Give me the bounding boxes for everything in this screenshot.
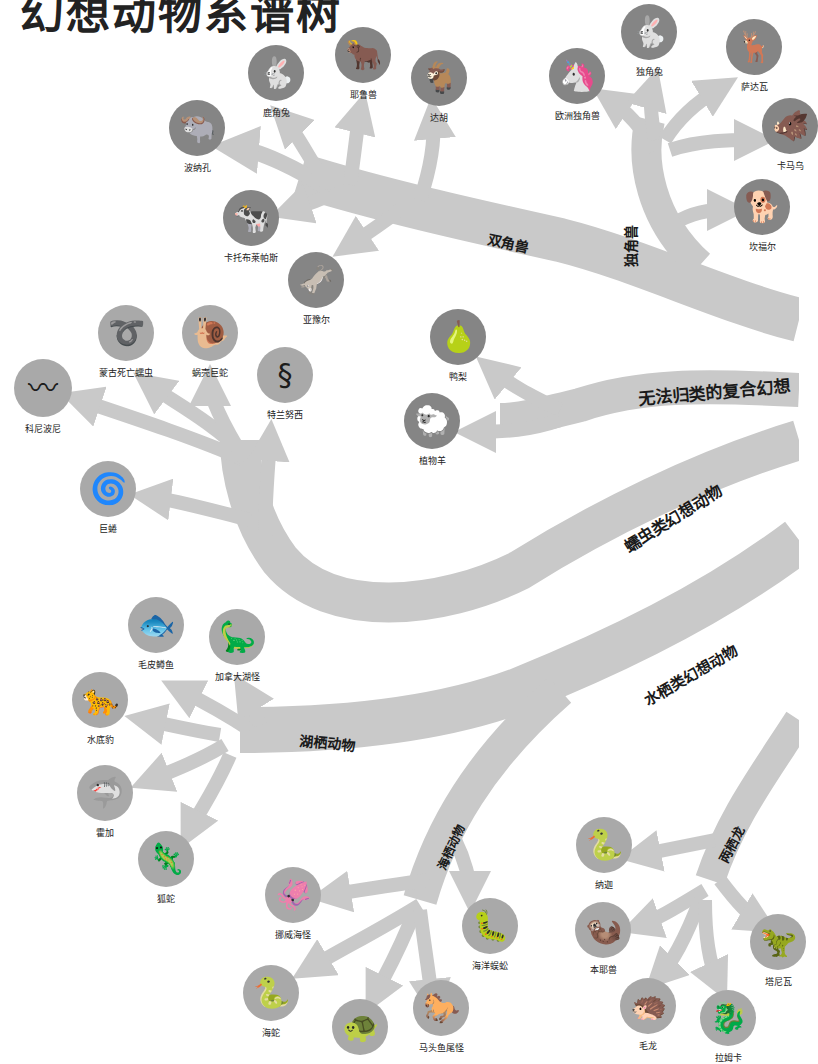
kamawu-silhouette-icon: 🐗 [762, 98, 818, 154]
silhouette-glyph: 🦑 [275, 880, 312, 910]
taniwa-silhouette-icon: 🦖 [750, 914, 806, 970]
silhouette-glyph: 🐎 [423, 993, 460, 1023]
creature-label: 鸭梨 [449, 370, 467, 383]
creature-label: 马头鱼尾怪 [419, 1041, 464, 1054]
creature-label: 塔尼瓦 [765, 975, 792, 988]
silhouette-glyph: 🦔 [630, 991, 667, 1021]
dahu-silhouette-icon: 🐐 [411, 50, 467, 106]
creature-label: 耶鲁兽 [350, 88, 377, 101]
silhouette-glyph: ➰ [108, 318, 145, 348]
najia-silhouette-icon: 🐍 [576, 817, 632, 873]
creature-label: 毛皮鳟鱼 [138, 658, 174, 671]
branch-two-horned [300, 175, 799, 320]
silhouette-glyph: 🐆 [82, 685, 119, 715]
shuidibao-silhouette-icon: 🐆 [72, 672, 128, 728]
dujiaotu-silhouette-icon: 🐇 [621, 4, 677, 60]
jianadahuguai-silhouette-icon: 🦕 [209, 609, 265, 665]
silhouette-glyph: 🐄 [233, 203, 270, 233]
silhouette-glyph: 🦄 [559, 61, 596, 91]
silhouette-glyph: 🐍 [586, 830, 623, 860]
luzhuotu-silhouette-icon: 🐇 [248, 45, 304, 101]
creature-label: 本耶兽 [590, 963, 617, 976]
silhouette-glyph: 🦈 [87, 778, 124, 808]
silhouette-glyph: 〰 [28, 373, 58, 403]
creature-label: 毛龙 [639, 1039, 657, 1052]
silhouette-glyph: 🐉 [710, 1003, 747, 1033]
silhouette-glyph: 🐢 [342, 1012, 379, 1042]
haiyangwugong-silhouette-icon: 🐛 [462, 898, 518, 954]
bottom-partial-silhouette-icon: 🐉 [700, 990, 756, 1046]
nuoweihaiguai-silhouette-icon: 🦑 [265, 867, 321, 923]
silhouette-glyph: 🐇 [258, 58, 295, 88]
silhouette-glyph: 🐃 [179, 113, 216, 143]
silhouette-glyph: 🦖 [760, 927, 797, 957]
katuobulaipasi-silhouette-icon: 🐄 [223, 190, 279, 246]
creature-label: 挪威海怪 [275, 928, 311, 941]
creature-label: 拉姆卡 [715, 1051, 742, 1064]
haishe-silhouette-icon: 🐍 [243, 965, 299, 1021]
silhouette-glyph: 🦕 [219, 622, 256, 652]
silhouette-glyph: 🐛 [472, 911, 509, 941]
silhouette-glyph: 🫏 [298, 265, 335, 295]
creature-label: 坎福尔 [749, 240, 776, 253]
creature-label: 巨蜷 [99, 522, 117, 535]
sadawa-silhouette-icon: 🦌 [726, 19, 782, 75]
menggusiwangruchong-silhouette-icon: ➰ [98, 305, 154, 361]
maopizunyu-silhouette-icon: 🐟 [128, 597, 184, 653]
branch-label-one-horned: 独角兽 [620, 225, 640, 267]
creature-label: 独角兔 [636, 65, 663, 78]
creature-label: 欧洲独角兽 [555, 109, 600, 122]
silhouette-glyph: 🦎 [148, 844, 185, 874]
silhouette-glyph: 🐑 [414, 406, 451, 436]
creature-label: 卡托布莱帕斯 [224, 251, 278, 264]
silhouette-glyph: 🐌 [192, 318, 229, 348]
silhouette-glyph: 🐐 [421, 63, 458, 93]
silhouette-glyph: 🐇 [631, 17, 668, 47]
bonakong-silhouette-icon: 🐃 [169, 100, 225, 156]
creature-label: 霍加 [96, 826, 114, 839]
kenibonie-silhouette-icon: 〰 [14, 359, 72, 417]
silhouette-glyph: 🐂 [345, 40, 382, 70]
silhouette-glyph: 🦦 [585, 915, 622, 945]
haigui-silhouette-icon: 🐢 [332, 999, 388, 1055]
creature-label: 纳迦 [595, 878, 613, 891]
silhouette-glyph: 🐟 [138, 610, 175, 640]
maolong-silhouette-icon: 🦔 [620, 978, 676, 1034]
silhouette-glyph: § [278, 360, 293, 390]
creature-label: 蒙古死亡蠕虫 [99, 366, 153, 379]
zhiwuyang-silhouette-icon: 🐑 [404, 393, 460, 449]
ouzhoudujiaoshou-silhouette-icon: 🦄 [549, 48, 605, 104]
kanfuer-silhouette-icon: 🐕 [734, 179, 790, 235]
creature-label: 鹿角兔 [263, 106, 290, 119]
creature-label: 海蛇 [262, 1026, 280, 1039]
creature-label: 蜗壳巨蛇 [192, 366, 228, 379]
creature-label: 萨达瓦 [741, 80, 768, 93]
silhouette-glyph: 🦌 [736, 32, 773, 62]
yayaer-silhouette-icon: 🫏 [288, 252, 344, 308]
benyeshou-silhouette-icon: 🦦 [575, 902, 631, 958]
creature-label: 水底豹 [87, 733, 114, 746]
telannuxi-silhouette-icon: § [257, 347, 313, 403]
hushe-silhouette-icon: 🦎 [138, 831, 194, 887]
creature-label: 卡马乌 [777, 159, 804, 172]
creature-label: 植物羊 [419, 454, 446, 467]
silhouette-glyph: 🐍 [253, 978, 290, 1008]
matouyuweiguai-silhouette-icon: 🐎 [413, 980, 469, 1036]
creature-label: 波纳孔 [184, 161, 211, 174]
silhouette-glyph: 🐕 [744, 192, 781, 222]
jujuan-silhouette-icon: 🌀 [80, 461, 136, 517]
creature-label: 达胡 [430, 111, 448, 124]
creature-label: 亚豫尔 [303, 313, 330, 326]
silhouette-glyph: 🍐 [440, 322, 477, 352]
creature-label: 加拿大湖怪 [215, 670, 260, 683]
yelushou-silhouette-icon: 🐂 [335, 27, 391, 83]
silhouette-glyph: 🐗 [772, 111, 809, 141]
creature-label: 特兰努西 [267, 408, 303, 421]
silhouette-glyph: 🌀 [90, 474, 127, 504]
creature-label: 狐蛇 [157, 892, 175, 905]
huojia-silhouette-icon: 🦈 [77, 765, 133, 821]
yali-silhouette-icon: 🍐 [430, 309, 486, 365]
creature-label: 海洋蜈蚣 [472, 959, 508, 972]
creature-label: 科尼波尼 [25, 422, 61, 435]
woqiaojushe-silhouette-icon: 🐌 [182, 305, 238, 361]
